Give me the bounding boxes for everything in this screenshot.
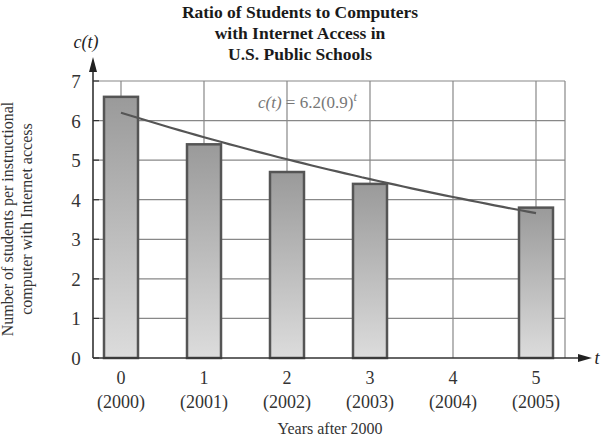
- x-tick-label: 1: [200, 368, 209, 388]
- x-tick-year-label: (2000): [97, 392, 145, 413]
- x-tick-label: 3: [366, 368, 375, 388]
- x-tick-year-label: (2002): [263, 392, 311, 413]
- y-tick-label: 2: [71, 269, 81, 290]
- y-axis-arrow-icon: [89, 57, 97, 72]
- x-axis-arrow-icon: [578, 354, 592, 362]
- y-tick-label: 5: [71, 150, 81, 171]
- y-axis-variable: c(t): [74, 32, 99, 53]
- y-tick-label: 6: [71, 111, 81, 132]
- y-tick-label: 7: [71, 71, 81, 92]
- x-tick-year-label: (2001): [180, 392, 228, 413]
- model-equation-label: c(t) = 6.2(0.9)t: [258, 90, 358, 112]
- model-curve-path: [121, 113, 536, 213]
- x-tick-label: 5: [532, 368, 541, 388]
- x-tick-label: 0: [117, 368, 126, 388]
- y-tick-label: 1: [71, 308, 81, 329]
- x-tick-year-label: (2003): [346, 392, 394, 413]
- gridlines: [93, 81, 565, 358]
- x-tick-label: 2: [283, 368, 292, 388]
- x-tick-year-label: (2004): [429, 392, 477, 413]
- model-curve: [121, 113, 536, 213]
- y-tick-label: 3: [71, 229, 81, 250]
- y-tick-label: 4: [71, 190, 81, 211]
- chart-plot-area: 012345670(2000)1(2001)2(2002)3(2003)4(20…: [0, 0, 602, 446]
- x-axis-variable: t: [594, 348, 600, 368]
- y-tick-label: 0: [71, 348, 81, 369]
- bar: [104, 97, 138, 358]
- bar: [353, 184, 387, 358]
- bar: [270, 172, 304, 358]
- x-tick-label: 4: [449, 368, 458, 388]
- bar: [187, 144, 221, 358]
- x-tick-year-label: (2005): [512, 392, 560, 413]
- bar: [519, 208, 553, 358]
